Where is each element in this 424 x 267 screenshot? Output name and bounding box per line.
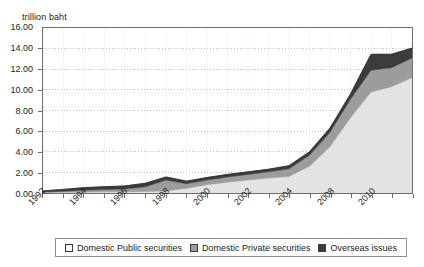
chart-container: trillion baht 16.0014.0012.0010.008.006.…: [0, 0, 424, 267]
x-axis-tick: [124, 194, 125, 198]
x-axis-tick: [372, 194, 373, 198]
legend-item[interactable]: Domestic Private securities: [190, 243, 311, 253]
x-axis-tick: [351, 194, 352, 198]
plot-area: [42, 27, 413, 194]
x-axis-tick: [392, 194, 393, 198]
chart-legend: Domestic Public securitiesDomestic Priva…: [55, 238, 407, 257]
x-axis-tick: [63, 194, 64, 198]
legend-item[interactable]: Overseas issues: [318, 243, 397, 253]
y-axis-tick-label: 8.00: [15, 106, 33, 116]
legend-item[interactable]: Domestic Public securities: [65, 243, 182, 253]
legend-item-label: Domestic Public securities: [77, 243, 182, 253]
legend-swatch-domestic-private-icon: [190, 244, 198, 252]
x-axis-tick: [228, 194, 229, 198]
y-axis-tick-label: 10.00: [10, 85, 33, 95]
y-axis: 16.0014.0012.0010.008.006.004.002.000.00: [0, 0, 42, 200]
x-axis-tick: [207, 194, 208, 198]
legend-item-label: Overseas issues: [330, 243, 397, 253]
x-axis-tick: [186, 194, 187, 198]
x-axis-tick: [166, 194, 167, 198]
y-axis-tick-label: 12.00: [10, 64, 33, 74]
legend-item-label: Domestic Private securities: [202, 243, 311, 253]
x-axis-tick: [104, 194, 105, 198]
y-axis-tick-label: 0.00: [15, 189, 33, 199]
y-axis-tick-label: 14.00: [10, 43, 33, 53]
y-axis-tick-label: 16.00: [10, 22, 33, 32]
x-axis-tick: [310, 194, 311, 198]
x-axis-tick: [145, 194, 146, 198]
x-axis-tick: [331, 194, 332, 198]
legend-swatch-overseas-issues-icon: [318, 244, 326, 252]
x-axis-tick: [289, 194, 290, 198]
x-axis-tick: [83, 194, 84, 198]
x-axis-tick: [413, 194, 414, 198]
y-axis-tick-label: 2.00: [15, 168, 33, 178]
y-axis-tick-label: 4.00: [15, 147, 33, 157]
x-axis-tick: [42, 194, 43, 198]
x-axis-tick: [248, 194, 249, 198]
x-axis-tick: [269, 194, 270, 198]
legend-swatch-domestic-public-icon: [65, 244, 73, 252]
stacked-area-plot: [43, 28, 412, 193]
plot-inner: [43, 28, 412, 193]
y-axis-tick-label: 6.00: [15, 126, 33, 136]
